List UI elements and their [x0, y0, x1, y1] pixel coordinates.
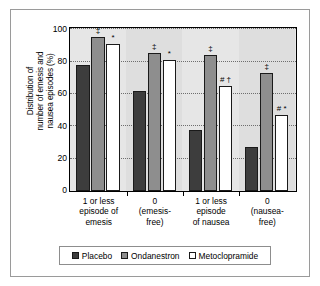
plot-inner: ‡*‡*‡# †‡# *	[70, 28, 296, 191]
y-tick-label: 0	[62, 185, 67, 195]
x-tick-label-line: 1 or less	[180, 196, 242, 206]
x-tick-label-line: 0	[236, 196, 298, 206]
x-axis-tick	[239, 192, 240, 196]
legend-label: Metoclopramide	[199, 251, 259, 261]
significance-marker: ‡	[264, 63, 268, 71]
significance-marker: # *	[277, 105, 287, 113]
x-tick-label-line: 0	[124, 196, 186, 206]
plot-area: ‡*‡*‡# †‡# *	[69, 27, 297, 192]
x-tick-label-line: emesis	[68, 217, 130, 227]
legend-label: Ondanestron	[131, 251, 179, 261]
bar-ondanestron	[260, 73, 274, 191]
x-tick-label-line: (emesis-	[124, 206, 186, 216]
significance-marker: ‡	[208, 45, 212, 53]
y-axis-title-line-1: Distribution of	[26, 67, 36, 116]
x-tick-label: 0(nausea-free)	[236, 196, 298, 227]
y-axis-tick-labels: 020406080100	[45, 27, 67, 192]
bar-metoclopramide	[163, 60, 177, 191]
legend-swatch-icon	[72, 252, 79, 259]
bar-placebo	[76, 65, 90, 191]
x-tick-label-line: of nausea	[180, 217, 242, 227]
x-tick-label-line: free)	[124, 217, 186, 227]
bar-metoclopramide	[275, 115, 289, 191]
y-tick-label: 80	[57, 56, 67, 66]
x-tick-label-line: episode of	[68, 206, 130, 216]
x-tick-label: 1 or lessepisode ofemesis	[68, 196, 130, 227]
x-axis-tick	[127, 192, 128, 196]
bar-metoclopramide	[219, 86, 233, 191]
y-tick-label: 20	[57, 153, 67, 163]
x-axis-tick	[183, 192, 184, 196]
bar-ondanestron	[91, 37, 105, 191]
legend-swatch-icon	[189, 252, 196, 259]
x-tick-label-line: episode	[180, 206, 242, 216]
bar-placebo	[189, 130, 203, 191]
figure-panel: Distribution of number of emesis and nau…	[10, 9, 310, 277]
x-tick-label-line: (nausea-	[236, 206, 298, 216]
significance-marker: ‡	[96, 27, 100, 35]
significance-marker: ‡	[152, 43, 156, 51]
legend-label: Placebo	[82, 251, 112, 261]
x-tick-label-line: 1 or less	[68, 196, 130, 206]
significance-marker: *	[168, 50, 171, 58]
x-axis-tick-labels: 1 or lessepisode ofemesis0(emesis-free)1…	[69, 196, 297, 242]
y-tick-label: 60	[57, 88, 67, 98]
legend-item-placebo[interactable]: Placebo	[72, 251, 112, 261]
x-tick-label: 1 or lessepisodeof nausea	[180, 196, 242, 227]
chart-legend: PlaceboOndanestronMetoclopramide	[59, 246, 271, 265]
legend-item-ondanestron[interactable]: Ondanestron	[121, 251, 179, 261]
bar-placebo	[245, 147, 259, 191]
bar-placebo	[133, 91, 147, 191]
legend-swatch-icon	[121, 252, 128, 259]
significance-marker: # †	[220, 76, 231, 84]
x-tick-label-line: free)	[236, 217, 298, 227]
x-tick-label: 0(emesis-free)	[124, 196, 186, 227]
significance-marker: *	[112, 34, 115, 42]
bar-ondanestron	[204, 55, 218, 191]
bar-metoclopramide	[106, 44, 120, 191]
bar-ondanestron	[148, 53, 162, 191]
gridline	[70, 28, 296, 29]
y-tick-label: 40	[57, 121, 67, 131]
y-tick-label: 100	[53, 24, 67, 34]
legend-item-metoclopramide[interactable]: Metoclopramide	[189, 251, 259, 261]
